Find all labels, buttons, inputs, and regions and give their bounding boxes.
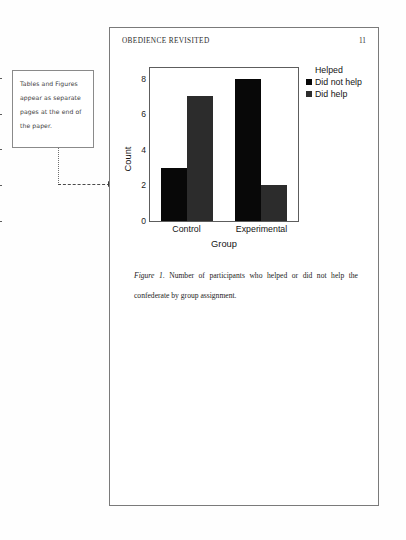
legend-label: Did help	[315, 88, 347, 100]
x-tick-label-control: Control	[149, 224, 224, 234]
figure-caption: Figure 1. Number of participants who hel…	[134, 266, 358, 306]
y-tick-mark	[0, 149, 2, 150]
legend-item-did-not-help: Did not help	[306, 76, 378, 88]
bar-experimental-did-help	[261, 185, 287, 221]
page-number: 11	[359, 36, 366, 45]
legend-label: Did not help	[315, 76, 362, 88]
bar-experimental-did-not-help	[235, 79, 261, 221]
x-tick-label-experimental: Experimental	[224, 224, 299, 234]
legend-swatch-icon	[306, 79, 312, 85]
y-tick-mark	[0, 221, 2, 222]
annotation-callout: Tables and Figures appear as separate pa…	[12, 70, 94, 148]
chart-plot-area: 0 2 4 6 8	[149, 67, 299, 222]
bar-control-did-help	[187, 96, 213, 221]
y-tick-label: 8	[141, 73, 150, 83]
chart-legend-title: Helped	[306, 64, 378, 76]
legend-item-did-help: Did help	[306, 88, 378, 100]
bar-group-experimental	[224, 68, 298, 221]
annotation-callout-text: Tables and Figures appear as separate pa…	[20, 77, 87, 133]
leader-line-horizontal	[58, 184, 110, 185]
figure-block: Count 0 2 4 6	[110, 56, 380, 261]
y-tick-mark	[0, 114, 2, 115]
bar-group-control	[150, 68, 224, 221]
y-tick-mark	[0, 78, 2, 79]
manuscript-page: OBEDIENCE REVISITED 11 Count 0 2 4	[109, 27, 379, 506]
legend-swatch-icon	[306, 91, 312, 97]
y-tick-label: 6	[141, 109, 150, 119]
y-tick-label: 2	[141, 180, 150, 190]
chart-x-axis-label: Group	[149, 239, 299, 249]
chart-x-tick-labels: Control Experimental	[149, 224, 299, 234]
chart-legend: Helped Did not help Did help	[306, 64, 378, 100]
running-head: OBEDIENCE REVISITED 11	[122, 36, 366, 45]
screenshot-root: Tables and Figures appear as separate pa…	[0, 0, 406, 540]
bar-control-did-not-help	[161, 168, 187, 221]
y-tick-mark	[0, 185, 2, 186]
leader-line-vertical	[58, 148, 59, 185]
figure-caption-text: . Number of participants who helped or d…	[134, 271, 358, 300]
chart-bars	[150, 68, 298, 221]
figure-caption-label: Figure 1	[134, 271, 163, 280]
running-head-title: OBEDIENCE REVISITED	[122, 36, 210, 45]
y-tick-label: 4	[141, 144, 150, 154]
chart-y-axis-label: Count	[123, 146, 133, 171]
